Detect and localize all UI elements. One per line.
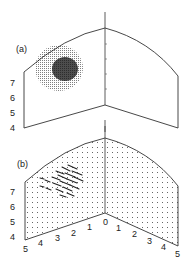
z-tick-7: 7: [10, 187, 15, 197]
y-tick-3: 3: [147, 236, 152, 246]
x-tick-4: 4: [38, 238, 43, 248]
y-tick-4: 4: [161, 242, 166, 252]
panel-a: (a) 7 6 5 4: [10, 12, 178, 133]
x-tick-5: 5: [23, 244, 28, 254]
left-floor-edge: [24, 105, 105, 128]
z-tick-5: 5: [10, 217, 15, 227]
panel-b: (b) 7 6 5 4 5 4 3 2 1 0 1 2 3 4 5: [10, 126, 180, 259]
panel-label-b: (b): [17, 159, 28, 169]
x-tick-2: 2: [71, 228, 76, 238]
density-core: [52, 57, 78, 81]
panel-label-a: (a): [16, 44, 27, 54]
xy-origin-0: 0: [103, 217, 108, 227]
z-tick-6: 6: [10, 202, 15, 212]
z-tick-4: 4: [10, 123, 15, 133]
right-floor-edge: [105, 105, 178, 128]
x-tick-1: 1: [87, 222, 92, 232]
figure: (a) 7 6 5 4: [0, 0, 191, 259]
y-tick-1: 1: [116, 223, 121, 233]
y-tick-5: 5: [175, 249, 180, 259]
z-tick-4: 4: [10, 232, 15, 242]
right-wall-top-edge: [105, 28, 178, 76]
z-tick-7: 7: [10, 78, 15, 88]
y-tick-2: 2: [132, 229, 137, 239]
x-tick-3: 3: [55, 233, 60, 243]
z-tick-5: 5: [10, 108, 15, 118]
z-tick-6: 6: [10, 93, 15, 103]
